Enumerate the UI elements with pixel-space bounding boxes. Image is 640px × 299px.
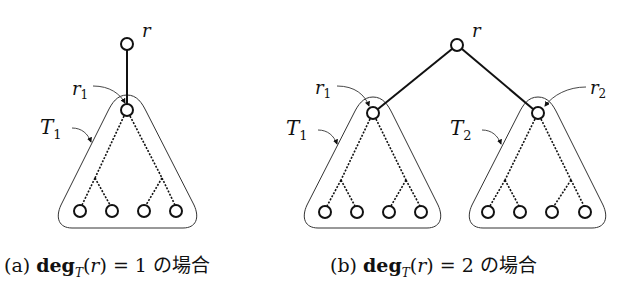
pointer-arrow-t1 xyxy=(72,128,91,142)
edge-r-r2 xyxy=(462,49,533,109)
label-r: r xyxy=(142,20,152,41)
leaf-node xyxy=(170,205,182,217)
edge-r-r1 xyxy=(378,49,452,109)
caption-b-func: deg xyxy=(363,254,402,276)
leaf-node xyxy=(106,205,118,217)
diagram-canvas: r r1 T1 xyxy=(0,0,640,240)
label-r1: r1 xyxy=(315,77,331,101)
leaf-node xyxy=(138,205,150,217)
caption-a-label: (a) xyxy=(4,254,30,276)
node-r xyxy=(121,38,133,50)
label-r1: r1 xyxy=(72,78,88,102)
subfigure-b: r r1 r2 T1 T2 xyxy=(286,20,606,228)
leaf-node xyxy=(415,206,427,218)
leaf-node xyxy=(514,206,526,218)
subfigure-a: r r1 T1 xyxy=(40,20,197,228)
caption-a-func: deg xyxy=(36,254,75,276)
node-r2 xyxy=(532,107,544,119)
label-t2: T2 xyxy=(450,116,472,143)
caption-b-sub: T xyxy=(402,266,410,280)
pointer-arrow-t1 xyxy=(318,130,337,144)
tree-degree-figure: r r1 T1 xyxy=(0,0,640,299)
label-t1: T1 xyxy=(286,116,308,143)
caption-b-eq: = 2 xyxy=(440,254,474,276)
caption-a-jp: の場合 xyxy=(153,254,210,276)
leaf-node xyxy=(482,206,494,218)
leaf-node xyxy=(351,206,363,218)
leaf-node xyxy=(74,205,86,217)
leaf-node xyxy=(546,206,558,218)
caption-a: (a) degT(r) = 1 の場合 xyxy=(4,250,210,280)
caption-b-arg: r xyxy=(417,254,426,276)
leaf-node xyxy=(579,206,591,218)
leaf-node xyxy=(383,206,395,218)
pointer-arrow-r1 xyxy=(337,86,369,106)
caption-b: (b) degT(r) = 2 の場合 xyxy=(330,250,537,280)
label-r2: r2 xyxy=(590,77,606,101)
caption-a-close: ) xyxy=(99,254,106,276)
node-r1 xyxy=(121,104,133,116)
caption-b-close: ) xyxy=(426,254,433,276)
label-t1: T1 xyxy=(40,115,62,142)
label-r: r xyxy=(472,20,482,41)
caption-a-sub: T xyxy=(75,266,83,280)
caption-a-eq: = 1 xyxy=(113,254,147,276)
node-r xyxy=(451,39,463,51)
leaf-node xyxy=(319,206,331,218)
caption-b-label: (b) xyxy=(330,254,357,276)
pointer-arrow-t2 xyxy=(482,130,501,144)
node-r1 xyxy=(367,107,379,119)
pointer-arrow-r1 xyxy=(93,86,125,103)
caption-b-jp: の場合 xyxy=(480,254,537,276)
dotted-subtree-edges-a xyxy=(82,116,175,205)
